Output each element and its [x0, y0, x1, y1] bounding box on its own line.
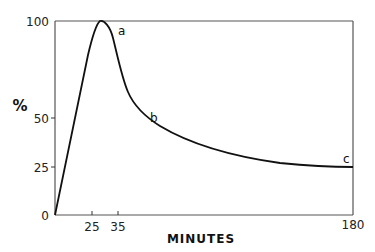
y-tick-0: 0	[41, 209, 49, 223]
x-axis-title: MINUTES	[167, 232, 235, 246]
x-tick-35: 35	[110, 220, 125, 234]
y-tick-25: 25	[34, 161, 49, 175]
line-chart: 100 50 25 0 25 35 180 % MINUTES a b c	[0, 0, 375, 252]
y-tick-50: 50	[34, 112, 49, 126]
annotation-b: b	[150, 111, 158, 125]
data-line	[55, 21, 353, 215]
y-axis-title: %	[12, 97, 27, 115]
y-tick-100: 100	[26, 15, 49, 29]
annotation-c: c	[343, 152, 350, 166]
plot-frame	[55, 21, 353, 215]
annotation-a: a	[118, 24, 125, 38]
x-tick-25: 25	[84, 220, 99, 234]
x-tick-180: 180	[342, 218, 365, 232]
